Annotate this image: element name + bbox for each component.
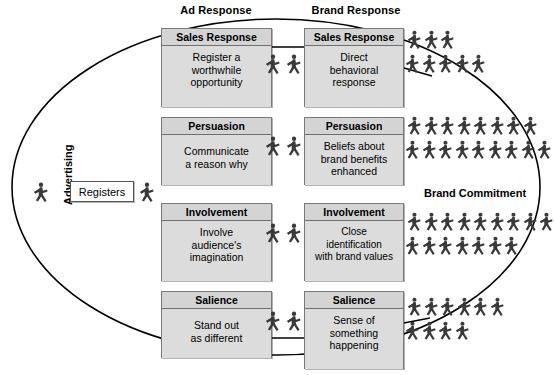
walking-person-icon (522, 212, 537, 233)
figure-row (264, 311, 306, 333)
walking-person-icon (437, 140, 452, 161)
brand-commitment-label: Brand Commitment (424, 187, 526, 199)
walking-person-icon (536, 140, 551, 161)
box-header: Salience (162, 292, 271, 309)
box-header: Sales Response (305, 29, 403, 46)
box-brand-sales-response[interactable]: Sales Response Direct behavioral respons… (304, 28, 404, 107)
walking-person-icon (285, 136, 301, 158)
walking-person-icon (423, 212, 438, 233)
box-ad-involvement[interactable]: Involvement Involve audience's imaginati… (161, 203, 272, 281)
walking-person-icon (522, 116, 537, 137)
walking-person-icon (421, 321, 436, 342)
walking-person-icon (138, 182, 154, 204)
walking-person-icon (472, 297, 487, 318)
walking-person-icon (489, 116, 504, 137)
figure-row (406, 212, 554, 233)
registers-box[interactable]: Registers (70, 181, 134, 202)
walking-person-icon (423, 30, 438, 51)
walking-person-icon (487, 140, 502, 161)
walking-person-icon (437, 321, 452, 342)
box-header: Persuasion (305, 118, 403, 135)
walking-person-icon (285, 223, 301, 245)
walking-person-icon (503, 140, 518, 161)
figure-row (404, 54, 487, 75)
box-header: Involvement (162, 204, 271, 221)
figure-row (264, 54, 306, 76)
figure-row (404, 321, 470, 342)
walking-person-icon (285, 54, 301, 76)
walking-person-icon (505, 212, 520, 233)
walking-person-icon (421, 236, 436, 257)
figure-row (406, 30, 456, 51)
walking-person-icon (538, 212, 553, 233)
box-header: Salience (305, 292, 403, 309)
box-body: Stand out as different (162, 309, 271, 358)
walking-person-icon (264, 136, 280, 158)
box-header: Persuasion (162, 118, 271, 135)
box-brand-involvement[interactable]: Involvement Close identification with br… (304, 203, 404, 281)
walking-person-icon (406, 212, 421, 233)
box-brand-persuasion[interactable]: Persuasion Beliefs about brand benefits … (304, 117, 404, 185)
box-body: Communicate a reason why (162, 135, 271, 185)
figure-row (406, 116, 538, 137)
figure-row (32, 182, 48, 204)
walking-person-icon (505, 116, 520, 137)
figure-row (264, 136, 306, 158)
walking-person-icon (437, 236, 452, 257)
walking-person-icon (406, 30, 421, 51)
walking-person-icon (456, 116, 471, 137)
figure-row (404, 140, 553, 161)
walking-person-icon (454, 236, 469, 257)
walking-person-icon (264, 311, 280, 333)
walking-person-icon (503, 236, 518, 257)
box-header: Involvement (305, 204, 403, 221)
walking-person-icon (264, 223, 280, 245)
walking-person-icon (439, 212, 454, 233)
column-heading-ad-response: Ad Response (160, 4, 272, 16)
walking-person-icon (423, 116, 438, 137)
walking-person-icon (421, 54, 436, 75)
walking-person-icon (439, 116, 454, 137)
walking-person-icon (489, 212, 504, 233)
box-brand-salience[interactable]: Salience Sense of something happening (304, 291, 404, 369)
walking-person-icon (404, 236, 419, 257)
figure-row (404, 236, 520, 257)
box-body: Involve audience's imagination (162, 221, 271, 281)
box-ad-salience[interactable]: Salience Stand out as different (161, 291, 272, 358)
walking-person-icon (404, 140, 419, 161)
box-body: Direct behavioral response (305, 46, 403, 107)
walking-person-icon (520, 140, 535, 161)
walking-person-icon (404, 321, 419, 342)
column-heading-brand-response: Brand Response (300, 4, 412, 16)
diagram-canvas: Ad Response Brand Response Advertising B… (0, 0, 554, 375)
walking-person-icon (470, 54, 485, 75)
box-body: Beliefs about brand benefits enhanced (305, 135, 403, 185)
box-header: Sales Response (162, 29, 271, 46)
walking-person-icon (470, 140, 485, 161)
walking-person-icon (456, 212, 471, 233)
walking-person-icon (437, 54, 452, 75)
box-body: Register a worthwhile opportunity (162, 46, 271, 107)
walking-person-icon (439, 297, 454, 318)
box-ad-sales-response[interactable]: Sales Response Register a worthwhile opp… (161, 28, 272, 107)
box-ad-persuasion[interactable]: Persuasion Communicate a reason why (161, 117, 272, 185)
figure-row (406, 297, 505, 318)
walking-person-icon (264, 54, 280, 76)
walking-person-icon (454, 140, 469, 161)
walking-person-icon (439, 30, 454, 51)
walking-person-icon (456, 297, 471, 318)
box-body: Sense of something happening (305, 309, 403, 369)
walking-person-icon (404, 54, 419, 75)
walking-person-icon (423, 297, 438, 318)
walking-person-icon (472, 212, 487, 233)
walking-person-icon (454, 54, 469, 75)
walking-person-icon (470, 236, 485, 257)
walking-person-icon (406, 297, 421, 318)
walking-person-icon (32, 182, 48, 204)
walking-person-icon (406, 116, 421, 137)
walking-person-icon (489, 297, 504, 318)
walking-person-icon (487, 236, 502, 257)
box-body: Close identification with brand values (305, 221, 403, 281)
walking-person-icon (421, 140, 436, 161)
walking-person-icon (472, 116, 487, 137)
